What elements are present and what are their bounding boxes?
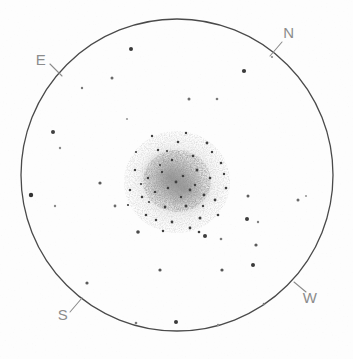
sketch-canvas: N E S W bbox=[0, 0, 353, 359]
field-star bbox=[136, 230, 140, 234]
field-star bbox=[129, 47, 133, 51]
field-star bbox=[305, 195, 307, 197]
field-star bbox=[257, 221, 259, 223]
east-label: E bbox=[36, 51, 47, 68]
field-star bbox=[217, 324, 219, 326]
field-star bbox=[98, 181, 101, 184]
field-star bbox=[54, 205, 56, 207]
field-star bbox=[85, 281, 88, 284]
field-star bbox=[114, 205, 117, 208]
eyepiece-sketch: N E S W bbox=[0, 0, 353, 359]
north-label: N bbox=[283, 24, 294, 41]
west-label: W bbox=[303, 289, 318, 306]
field-star bbox=[203, 234, 207, 238]
field-star bbox=[188, 98, 191, 101]
field-star bbox=[220, 268, 223, 271]
field-star bbox=[242, 69, 246, 73]
field-star bbox=[216, 98, 219, 101]
field-star bbox=[245, 217, 249, 221]
field-star bbox=[51, 130, 55, 134]
field-star bbox=[29, 193, 33, 197]
field-star bbox=[174, 320, 178, 324]
field-star bbox=[111, 77, 114, 80]
field-star bbox=[263, 303, 266, 306]
field-star bbox=[126, 118, 128, 120]
field-star bbox=[135, 322, 138, 325]
field-star bbox=[254, 243, 257, 246]
field-star bbox=[81, 87, 83, 89]
field-star bbox=[158, 268, 161, 271]
field-star bbox=[271, 56, 273, 58]
field-star bbox=[297, 199, 300, 202]
field-star bbox=[247, 195, 250, 198]
field-star bbox=[220, 238, 223, 241]
field-star bbox=[251, 263, 255, 267]
south-label: S bbox=[58, 306, 69, 323]
field-star bbox=[59, 147, 61, 149]
